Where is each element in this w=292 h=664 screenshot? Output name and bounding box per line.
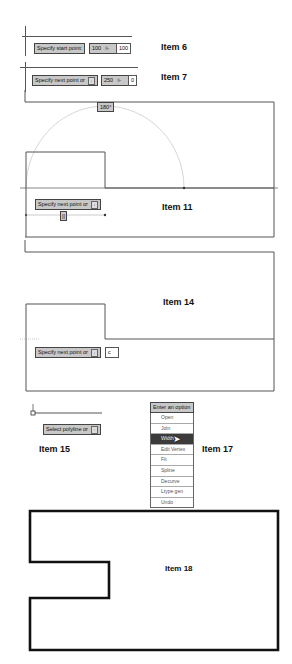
item14-prompt: Specify next point or ↓: [35, 347, 101, 358]
item11-drawing: [0, 90, 292, 240]
menu-item-spline[interactable]: Spline: [151, 466, 193, 477]
item14-input[interactable]: c: [105, 347, 119, 358]
menu-item-width[interactable]: Width: [151, 434, 193, 445]
item11-prompt-text: Specify next point or: [38, 200, 88, 209]
lock-icon: ⊪: [105, 44, 109, 53]
item7-prompt: Specify next point or ↓: [32, 75, 98, 86]
item11-length-input[interactable]: ||: [60, 211, 67, 221]
item11-label: Item 11: [162, 202, 193, 212]
item6-horizontal-line: [22, 36, 132, 37]
item11-prompt: Specify next point or ↓: [35, 199, 101, 210]
item6-prompt-text: Specify start point:: [37, 44, 82, 53]
item7-angle-input[interactable]: 0: [128, 75, 137, 86]
item14-prompt-text: Specify next point or: [38, 348, 88, 357]
item17-menu-title: Enter an option: [150, 402, 194, 413]
item7-angle-value: 0: [131, 77, 134, 83]
item7-length-value: 250: [104, 76, 113, 85]
item11-length-value: ||: [62, 212, 65, 220]
dropdown-arrow-icon[interactable]: ↓: [88, 77, 95, 85]
mouse-pointer-icon: ➤: [173, 434, 181, 444]
item6-vertical-line: [25, 26, 26, 56]
item14-input-value: c: [108, 349, 111, 355]
item15-prompt: Select polyline or ↓: [43, 424, 101, 435]
item15-label: Item 15: [39, 444, 70, 454]
item15-prompt-text: Select polyline or: [46, 425, 88, 434]
menu-item-edit-vertex[interactable]: Edit Vertex: [151, 445, 193, 456]
item7-prompt-text: Specify next point or: [35, 76, 85, 85]
item6-x-input[interactable]: 100 ⊪: [89, 43, 117, 54]
item6-x-value: 100: [92, 44, 101, 53]
item15-drawing: [28, 404, 108, 418]
item17-menu-list: Open Join Width Edit Vertex Fit Spline D…: [150, 413, 194, 508]
dropdown-arrow-icon[interactable]: ↓: [91, 349, 98, 357]
item14-bottom: [0, 375, 292, 395]
item7-label: Item 7: [161, 72, 187, 82]
dropdown-arrow-icon[interactable]: ↓: [91, 201, 98, 209]
item7-length-input[interactable]: 250 ⊪: [101, 75, 129, 86]
lock-icon: ⊪: [117, 76, 121, 85]
menu-item-fit[interactable]: Fit: [151, 455, 193, 466]
item6-y-value: 100: [119, 45, 128, 51]
item11-angle-tooltip: 180°: [97, 102, 114, 112]
item17-label: Item 17: [202, 444, 233, 454]
item18-polyline: [0, 505, 292, 660]
dropdown-arrow-icon[interactable]: ↓: [91, 426, 98, 434]
item7-vertical-line: [25, 62, 26, 92]
menu-item-decurve[interactable]: Decurve: [151, 477, 193, 488]
item6-prompt: Specify start point:: [34, 43, 85, 54]
item17-option-menu: Enter an option Open Join Width Edit Ver…: [150, 402, 194, 508]
menu-item-open[interactable]: Open: [151, 413, 193, 424]
item6-label: Item 6: [161, 42, 187, 52]
item18-label: Item 18: [165, 564, 193, 573]
item6-y-input[interactable]: 100: [116, 43, 131, 54]
menu-item-ltype-gen[interactable]: Ltype gen: [151, 487, 193, 498]
item7-horizontal-line: [20, 67, 138, 68]
menu-item-join[interactable]: Join: [151, 424, 193, 435]
item14-label: Item 14: [163, 297, 194, 307]
item11-angle-value: 180°: [100, 103, 111, 111]
